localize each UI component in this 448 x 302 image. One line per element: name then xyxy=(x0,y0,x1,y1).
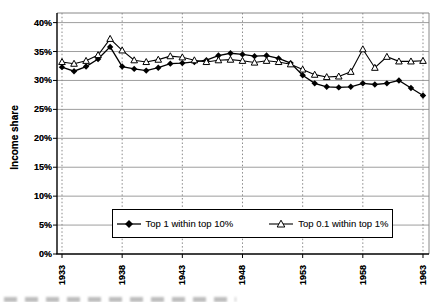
x-tick-label: 1933 xyxy=(56,260,68,290)
data-point-triangle xyxy=(311,71,318,77)
data-point-triangle xyxy=(299,66,306,72)
legend-entry-top01-within-top1: Top 0.1 within top 1% xyxy=(269,218,388,229)
cropped-caption-fragment xyxy=(4,297,236,302)
x-tick-label: 1938 xyxy=(116,260,128,290)
y-tick-label: 10% xyxy=(0,191,52,201)
y-tick-label: 5% xyxy=(0,220,52,230)
data-point-diamond xyxy=(360,80,366,86)
y-tick-label: 30% xyxy=(0,75,52,85)
y-tick-label: 20% xyxy=(0,133,52,143)
y-tick-label: 15% xyxy=(0,162,52,172)
income-share-chart: Income share 0%5%10%15%20%25%30%35%40% 1… xyxy=(0,0,448,302)
data-point-diamond xyxy=(324,84,330,90)
plot-area xyxy=(0,0,448,302)
data-point-diamond xyxy=(143,67,149,73)
data-point-triangle xyxy=(59,59,66,65)
data-point-diamond xyxy=(155,65,161,71)
data-point-triangle xyxy=(360,46,367,52)
data-point-triangle xyxy=(263,57,270,63)
data-point-triangle xyxy=(384,53,391,59)
data-point-diamond xyxy=(71,68,77,74)
data-point-triangle xyxy=(347,68,354,74)
legend-entry-top1-within-top10: Top 1 within top 10% xyxy=(117,218,234,229)
x-tick-label: 1963 xyxy=(417,260,429,290)
data-point-diamond xyxy=(336,84,342,90)
data-point-diamond xyxy=(131,66,137,72)
y-tick-label: 25% xyxy=(0,104,52,114)
data-point-diamond xyxy=(420,92,426,98)
data-point-diamond xyxy=(83,63,89,69)
data-point-diamond xyxy=(167,60,173,66)
data-point-diamond xyxy=(348,84,354,90)
data-point-diamond xyxy=(179,60,185,66)
y-tick-label: 0% xyxy=(0,249,52,259)
open-triangle-marker-icon xyxy=(269,219,293,229)
data-point-triangle xyxy=(107,35,114,41)
data-point-diamond xyxy=(408,85,414,91)
x-tick-label: 1958 xyxy=(357,260,369,290)
legend-label: Top 1 within top 10% xyxy=(146,218,234,229)
data-point-diamond xyxy=(119,63,125,69)
filled-diamond-marker-icon xyxy=(117,219,141,229)
data-point-diamond xyxy=(396,77,402,83)
legend: Top 1 within top 10% Top 0.1 within top … xyxy=(112,209,393,238)
legend-label: Top 0.1 within top 1% xyxy=(298,218,388,229)
x-tick-label: 1943 xyxy=(176,260,188,290)
y-tick-label: 40% xyxy=(0,18,52,28)
x-tick-label: 1948 xyxy=(236,260,248,290)
data-point-diamond xyxy=(384,80,390,86)
x-tick-label: 1953 xyxy=(297,260,309,290)
y-tick-label: 35% xyxy=(0,47,52,57)
data-point-triangle xyxy=(167,53,174,59)
data-point-diamond xyxy=(372,81,378,87)
data-point-triangle xyxy=(83,57,90,63)
